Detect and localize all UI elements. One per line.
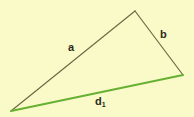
side-label-b: b (160, 29, 167, 40)
side-label-d1-base: d (95, 95, 102, 107)
triangle-diagram: a b d1 (0, 0, 194, 117)
side-label-a: a (68, 42, 74, 53)
side-label-d1-subscript: 1 (102, 101, 106, 108)
side-label-d1: d1 (95, 96, 106, 107)
